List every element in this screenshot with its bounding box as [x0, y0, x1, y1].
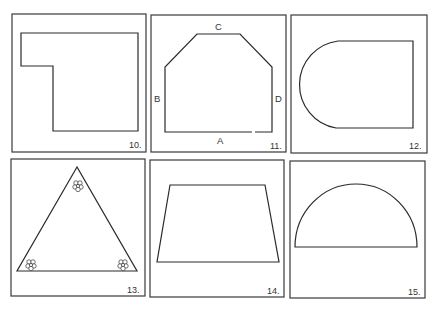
panel-frame	[150, 160, 284, 297]
panel-11: C B D A 11.	[151, 15, 286, 152]
vertex-label-b: B	[154, 93, 160, 104]
flower-icon	[118, 260, 128, 271]
flower-icon	[73, 181, 83, 192]
panel-14: 14.	[150, 160, 284, 297]
vertex-label-d: D	[275, 93, 282, 104]
semicircle-shape	[295, 184, 417, 247]
figure-sheet: 10. C B D A 11. 12. 13.	[0, 0, 435, 309]
panel-frame	[291, 15, 427, 153]
panel-frame	[11, 159, 145, 296]
figure-number: 13.	[127, 285, 140, 295]
flower-icon	[26, 260, 36, 271]
figure-number: 10.	[129, 140, 142, 150]
panel-10: 10.	[12, 14, 146, 152]
vertex-label-a: A	[217, 135, 224, 146]
hexagon-shape	[165, 34, 272, 132]
figure-number: 15.	[408, 287, 421, 297]
panel-15: 15.	[290, 161, 425, 298]
panel-13: 13.	[11, 159, 145, 296]
l-shape	[21, 33, 138, 131]
figure-number: 11.	[270, 141, 282, 151]
vertex-label-c: C	[215, 21, 222, 32]
figure-number: 14.	[267, 286, 280, 296]
panel-12: 12.	[291, 15, 427, 153]
panel-frame	[290, 161, 425, 298]
figure-number: 12.	[409, 141, 422, 151]
trapezoid-shape	[157, 185, 279, 262]
rounded-rectangle-shape	[300, 41, 413, 128]
